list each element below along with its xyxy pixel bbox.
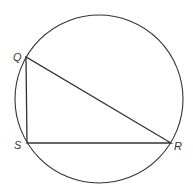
vertex-label-s: S [14, 139, 22, 151]
geometry-diagram: Q S R [0, 0, 193, 196]
circumscribed-circle [15, 15, 183, 183]
triangle-qsr [26, 57, 171, 143]
vertex-label-q: Q [13, 51, 22, 63]
vertex-label-r: R [174, 140, 182, 152]
